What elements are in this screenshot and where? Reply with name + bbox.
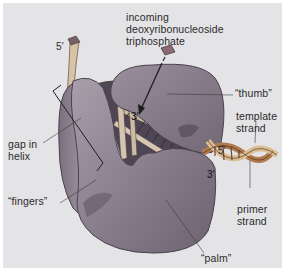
label-thumb: “thumb” (235, 88, 272, 99)
label-palm: “palm” (201, 253, 231, 264)
label-five-prime-helix: 5′ (218, 145, 226, 156)
dna-double-helix-exit (203, 141, 277, 160)
label-three-prime-active: 3′ (131, 111, 139, 122)
label-primer-line1: primer (237, 204, 267, 215)
label-primer-line2: strand (237, 216, 267, 227)
label-template-line2: strand (236, 123, 266, 134)
label-gap-line1: gap in (8, 139, 37, 150)
label-deoxyribonucleoside: deoxyribonucleoside (126, 24, 224, 35)
label-template-line1: template (236, 111, 277, 122)
diagram-panel: incoming deoxyribonucleoside triphosphat… (3, 3, 282, 268)
label-five-prime-top: 5′ (56, 41, 64, 52)
label-gap-line2: helix (8, 151, 30, 162)
label-incoming: incoming (126, 12, 169, 23)
label-fingers: “fingers” (8, 196, 47, 207)
label-triphosphate: triphosphate (126, 36, 185, 47)
incoming-nucleotide-icon (161, 45, 175, 61)
label-three-prime-helix: 3′ (207, 169, 215, 180)
